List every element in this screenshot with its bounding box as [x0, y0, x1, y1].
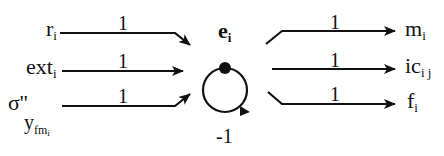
node-dot-icon	[219, 62, 231, 74]
loop-arrowhead-icon	[240, 106, 250, 116]
input-weight-ext: 1	[118, 51, 128, 71]
node-e-self-loop	[203, 62, 250, 116]
input-label-r: ri	[46, 18, 57, 42]
input-label-ext: exti	[26, 56, 57, 80]
output-weight-ic: 1	[330, 50, 340, 70]
output-label-ic: ici j	[405, 55, 431, 79]
output-weight-m: 1	[330, 12, 340, 32]
output-label-m: mi	[405, 18, 426, 42]
self-loop-weight: -1	[216, 126, 233, 146]
input-label-sigma-subscript: yfmi	[24, 112, 50, 138]
output-label-f: fi	[407, 90, 418, 114]
input-arrow-r	[60, 33, 190, 45]
output-weight-f: 1	[330, 84, 340, 104]
node-label-e: ei	[218, 20, 231, 44]
input-weight-r: 1	[118, 13, 128, 33]
input-weight-sigma: 1	[118, 86, 128, 106]
